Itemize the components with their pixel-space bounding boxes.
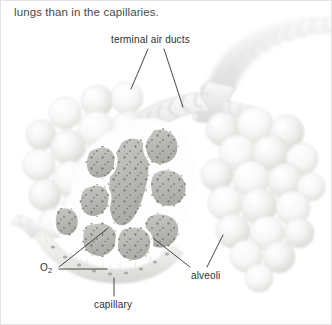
figure-page: lungs than in the capillaries. xyxy=(0,0,332,325)
label-alveoli: alveoli xyxy=(191,270,220,281)
label-terminal-air-ducts: terminal air ducts xyxy=(111,34,190,45)
alveoli-illustration xyxy=(1,1,332,325)
duct-stub-lower-left xyxy=(11,215,41,239)
label-o2-subscript: 2 xyxy=(48,266,52,275)
alveolar-cluster-right xyxy=(201,107,325,292)
main-duct-upper-right xyxy=(209,18,332,93)
leader-alveoli-right xyxy=(207,235,223,267)
leader-terminal-left xyxy=(131,49,148,89)
label-capillary: capillary xyxy=(94,299,132,310)
label-o2: O2 xyxy=(40,262,52,273)
label-o2-symbol: O xyxy=(40,262,48,273)
